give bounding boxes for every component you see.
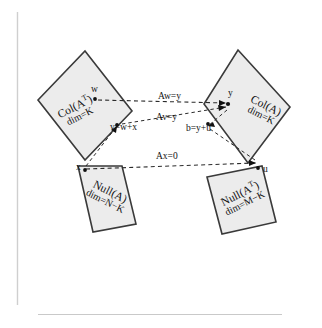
- point-y: [226, 102, 230, 106]
- label-point-w: w: [91, 85, 98, 95]
- figure-canvas: Col(AT) dim=K Col(A) dim=K Null(A) dim=N…: [0, 0, 322, 328]
- label-b-equals-y-plus-u: b=y+u: [186, 124, 211, 134]
- point-u: [256, 166, 260, 170]
- label-point-u: u: [263, 165, 268, 175]
- label-ax-equals-zero: Ax=0: [156, 152, 178, 162]
- label-v-equals-w-plus-x: v=w+x: [110, 123, 137, 133]
- label-point-x: x: [76, 163, 81, 173]
- label-aw-equals-y: Aw=y: [158, 92, 181, 102]
- diagram-svg: [0, 0, 322, 328]
- label-point-y: y: [228, 89, 233, 99]
- label-av-equals-y: Av=y: [156, 113, 177, 123]
- arrowhead-ax-to-u: [249, 160, 256, 166]
